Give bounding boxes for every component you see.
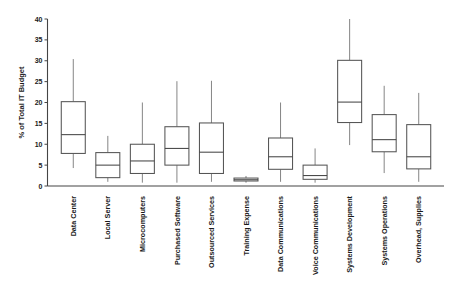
box-plot-2	[96, 136, 120, 182]
box-plot-chart: 0510152025303540 Data CenterLocal Server…	[0, 0, 452, 302]
category-label-4: Purchased Software	[173, 196, 182, 265]
box-plot-1	[61, 59, 85, 168]
category-label-7: Data Communications	[276, 196, 285, 272]
box-plot-5	[199, 81, 223, 182]
category-labels: Data CenterLocal ServerMicrocomputersPur…	[69, 195, 423, 275]
box-iqr	[199, 123, 223, 174]
box-iqr	[372, 115, 396, 152]
y-tick-label-35: 35	[35, 36, 43, 43]
y-axis-title: % of Total IT Budget	[17, 66, 26, 138]
y-tick-label-0: 0	[39, 183, 43, 190]
category-label-10: Systems Operations	[380, 196, 389, 266]
box-iqr	[407, 125, 431, 169]
y-tick-label-10: 10	[35, 141, 43, 148]
category-label-2: Local Server	[103, 196, 112, 239]
y-tick-label-40: 40	[35, 16, 43, 23]
y-tick-label-5: 5	[39, 162, 43, 169]
category-label-11: Overhead, Supplies	[414, 196, 423, 263]
y-tick-label-20: 20	[35, 99, 43, 106]
chart-canvas: 0510152025303540 Data CenterLocal Server…	[0, 0, 452, 302]
box-plot-4	[165, 81, 189, 182]
box-iqr	[269, 138, 293, 169]
box-plot-8	[303, 148, 327, 182]
box-plot-9	[338, 19, 362, 145]
y-axis-title-text: % of Total IT Budget	[17, 66, 26, 138]
box-iqr	[303, 165, 327, 179]
box-iqr	[165, 127, 189, 165]
box-series	[61, 19, 430, 183]
box-plot-11	[407, 93, 431, 182]
box-plot-6	[234, 176, 258, 183]
category-label-9: Systems Development	[345, 195, 354, 272]
box-iqr	[338, 60, 362, 122]
y-tick-label-25: 25	[35, 78, 43, 85]
category-label-5: Outsourced Services	[207, 196, 216, 268]
category-label-3: Microcomputers	[138, 196, 147, 252]
box-iqr	[61, 102, 85, 154]
box-plot-3	[130, 103, 154, 183]
box-iqr	[130, 144, 154, 173]
y-axis: 0510152025303540	[35, 16, 48, 190]
category-label-6: Training Expense	[242, 196, 251, 256]
box-plot-10	[372, 86, 396, 173]
y-tick-label-30: 30	[35, 57, 43, 64]
category-label-1: Data Center	[69, 196, 78, 237]
y-tick-label-15: 15	[35, 120, 43, 127]
category-label-8: Voice Communications	[311, 196, 320, 275]
box-plot-7	[269, 103, 293, 182]
